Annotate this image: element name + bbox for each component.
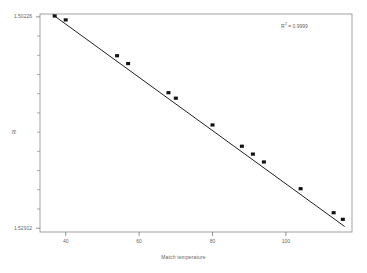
- x-tick-label: 60: [124, 238, 154, 244]
- x-axis-title: Match temperature: [0, 254, 367, 260]
- y-tick-label: 1.50226: [0, 13, 32, 19]
- x-tick-label: 40: [51, 238, 81, 244]
- chart-figure: RI Match temperature R2 = 0.9999 1.50226…: [0, 0, 367, 273]
- r-squared-value: = 0.9999: [287, 23, 308, 29]
- y-tick-label: 1.52912: [0, 225, 32, 231]
- y-axis-title: RI: [11, 112, 17, 152]
- x-tick-label: 80: [198, 238, 228, 244]
- y-axis-title-wrap: RI: [6, 112, 20, 152]
- chart-plot-area: [0, 0, 367, 273]
- r-squared-annotation: R2 = 0.9999: [281, 21, 308, 29]
- x-tick-label: 100: [271, 238, 301, 244]
